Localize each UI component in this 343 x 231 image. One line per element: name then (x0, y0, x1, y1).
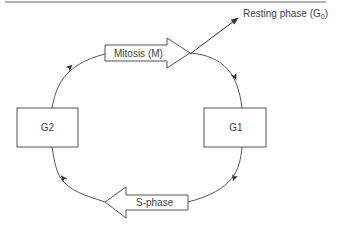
g1-to-sphase-edge (188, 147, 242, 202)
cell-cycle-diagram: Mitosis (M) S-phase G2 G1 Resting phase … (0, 0, 343, 231)
to-resting-edge (190, 18, 238, 54)
s-phase-label: S-phase (136, 197, 174, 208)
g2-to-mitosis-edge (52, 54, 105, 108)
mitosis-label: Mitosis (M) (114, 48, 163, 59)
g2-node: G2 (17, 108, 78, 147)
s-phase-arrow: S-phase (105, 187, 188, 218)
g2-label: G2 (41, 122, 55, 133)
mitosis-arrow: Mitosis (M) (105, 38, 190, 68)
sphase-to-g2-edge (52, 147, 105, 202)
mitosis-to-g1-edge (190, 53, 242, 108)
arrowhead-icon (233, 72, 235, 77)
g1-node: G1 (204, 108, 266, 147)
g1-label: G1 (229, 122, 243, 133)
resting-phase-label: Resting phase (G0) (243, 8, 328, 20)
